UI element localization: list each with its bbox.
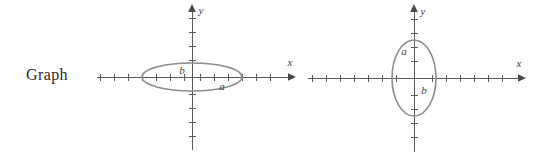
y-axis-arrow-icon xyxy=(410,4,418,12)
vertical-ellipse-svg: x y a b xyxy=(300,0,542,158)
semi-minor-axis-label-b: b xyxy=(179,64,185,76)
figure-container: Graph xyxy=(0,0,542,158)
semi-major-axis-label-a: a xyxy=(219,80,225,92)
x-axis-label: x xyxy=(516,57,522,69)
horizontal-ellipse-svg: x y b a xyxy=(90,0,300,158)
vertical-ellipse-plot: x y a b xyxy=(300,0,542,158)
x-axis-arrow-icon xyxy=(518,74,526,82)
y-axis-arrow-icon xyxy=(188,4,196,12)
row-label-graph: Graph xyxy=(26,66,68,84)
y-axis-label: y xyxy=(420,5,426,17)
x-axis-label: x xyxy=(287,56,293,68)
semi-minor-axis-label-b: b xyxy=(421,84,427,96)
horizontal-ellipse-plot: x y b a xyxy=(90,0,300,158)
x-axis-arrow-icon xyxy=(288,73,296,81)
y-axis-label: y xyxy=(198,4,204,16)
semi-major-axis-label-a: a xyxy=(401,45,407,57)
